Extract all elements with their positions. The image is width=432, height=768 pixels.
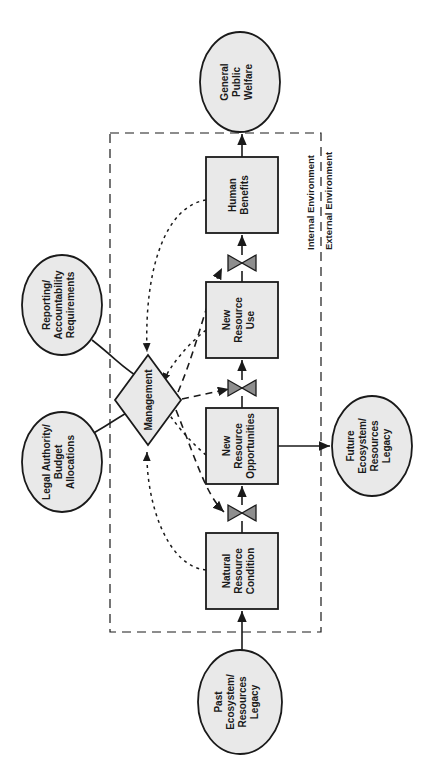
ellipse-label-line: Accountability bbox=[53, 270, 64, 339]
ellipse-future-ecosystem-resources-legacy[interactable]: Future Ecosystem/ Resources Legacy bbox=[332, 396, 412, 496]
valve-human-benefits-inflow bbox=[228, 255, 256, 271]
ellipse-label-line: Legal Authority/ bbox=[41, 424, 52, 500]
box-label-line: Resource bbox=[233, 548, 244, 594]
box-label-line: Condition bbox=[245, 548, 256, 595]
ellipse-label-line: Budget bbox=[53, 444, 64, 479]
valve-new-resource-opportunities-inflow bbox=[228, 505, 256, 521]
ellipse-label-line: Public bbox=[231, 67, 242, 97]
box-new-resource-opportunities[interactable]: New Resource Opportunities bbox=[206, 408, 278, 484]
control-management-to-valve2 bbox=[182, 389, 229, 399]
feedback-benefits-to-management bbox=[147, 200, 206, 352]
diamond-management[interactable]: Management bbox=[115, 355, 181, 445]
box-label-line: Natural bbox=[221, 554, 232, 589]
box-human-benefits[interactable]: Human Benefits bbox=[206, 157, 278, 233]
ellipse-label-line: Requirements bbox=[65, 271, 76, 338]
box-label-line: New bbox=[221, 309, 232, 330]
system-diagram: Internal Environment External Environmen… bbox=[0, 0, 432, 768]
box-label-line: Resource bbox=[233, 297, 244, 343]
feedback-natural-to-management bbox=[147, 452, 206, 570]
ellipse-label-line: Legacy bbox=[249, 684, 260, 719]
box-label-line: New bbox=[221, 435, 232, 456]
ellipse-reporting-accountability-requirements[interactable]: Reporting/ Accountability Requirements bbox=[22, 255, 102, 355]
ellipse-general-public-welfare[interactable]: General Public Welfare bbox=[200, 32, 280, 132]
ellipse-label-line: Legacy bbox=[381, 428, 392, 463]
ellipse-label-line: Ecosystem/ bbox=[225, 674, 236, 730]
box-label-line: Opportunities bbox=[245, 413, 256, 479]
ellipse-label-line: Future bbox=[345, 430, 356, 462]
ellipse-label-line: Allocations bbox=[65, 435, 76, 489]
external-environment-label: External Environment bbox=[323, 151, 334, 250]
ellipse-past-ecosystem-resources-legacy[interactable]: Past Ecosystem/ Resources Legacy bbox=[198, 650, 282, 754]
diamond-label: Management bbox=[143, 369, 154, 431]
ellipse-label-line: Welfare bbox=[243, 64, 254, 100]
ellipse-legal-authority-budget-allocations[interactable]: Legal Authority/ Budget Allocations bbox=[22, 412, 102, 512]
ellipse-label-line: Reporting/ bbox=[41, 280, 52, 330]
box-new-resource-use[interactable]: New Resource Use bbox=[206, 282, 278, 358]
box-label-line: Resource bbox=[233, 423, 244, 469]
ellipse-label-line: Resources bbox=[237, 676, 248, 728]
ellipse-label-line: Past bbox=[213, 691, 224, 713]
box-label-line: Benefits bbox=[239, 175, 250, 215]
box-natural-resource-condition[interactable]: Natural Resource Condition bbox=[206, 533, 278, 609]
ellipse-label-line: General bbox=[219, 63, 230, 100]
ellipse-label-line: Resources bbox=[369, 420, 380, 472]
box-label-line: Human bbox=[227, 178, 238, 212]
ellipse-label-line: Ecosystem/ bbox=[357, 418, 368, 474]
diagram-canvas: Internal Environment External Environmen… bbox=[0, 0, 432, 768]
internal-environment-label: Internal Environment bbox=[305, 154, 316, 250]
box-label-line: Use bbox=[245, 310, 256, 329]
valve-new-resource-use-inflow bbox=[228, 380, 256, 396]
